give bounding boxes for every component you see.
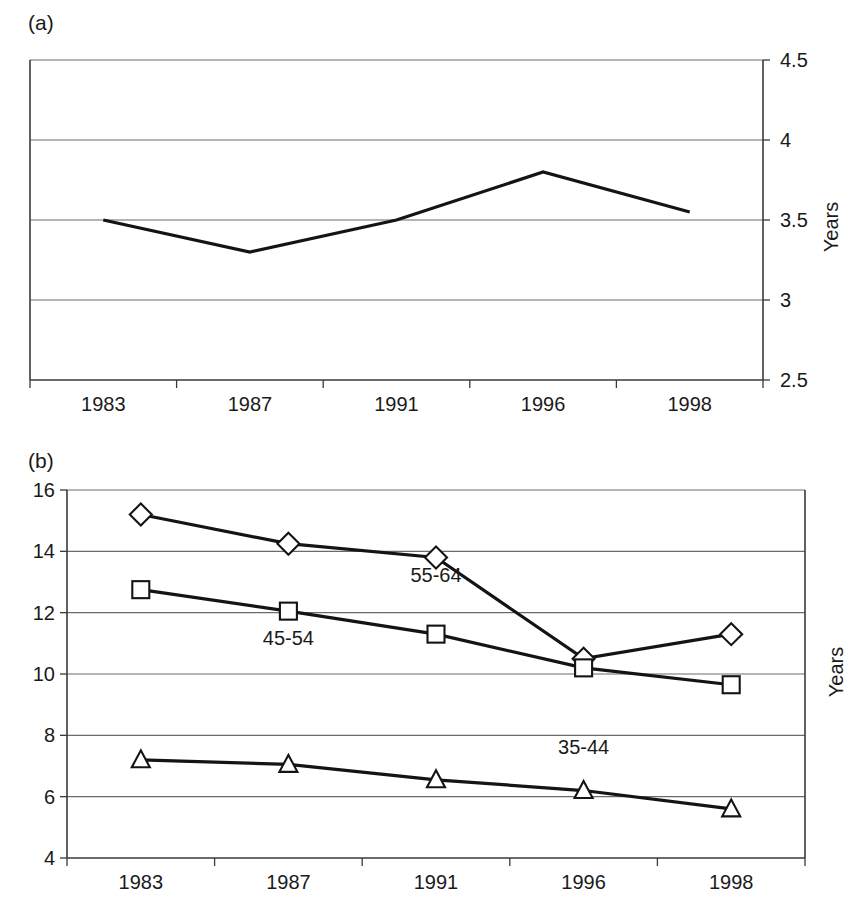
panel-b-series — [130, 504, 742, 817]
series-annotation-35-44: 35-44 — [558, 736, 609, 758]
x-tick-label: 1998 — [667, 393, 712, 415]
panel-a-gridlines — [30, 60, 763, 300]
panel-b-x-ticks: 19831987199119961998 — [67, 858, 805, 893]
panel-a-series — [103, 172, 689, 252]
y-tick-label: 3.5 — [780, 209, 808, 231]
x-tick-label: 1983 — [119, 871, 164, 893]
y-tick-label: 4 — [780, 129, 791, 151]
y-tick-label: 14 — [33, 540, 55, 562]
x-tick-label: 1996 — [521, 393, 566, 415]
marker-square — [280, 603, 297, 620]
panel-b-y-ticks: 46810121416 — [33, 479, 67, 869]
marker-square — [428, 626, 445, 643]
marker-square — [132, 581, 149, 598]
y-tick-label: 16 — [33, 479, 55, 501]
y-tick-label: 2.5 — [780, 369, 808, 391]
marker-diamond — [720, 623, 742, 645]
y-tick-label: 6 — [44, 786, 55, 808]
series-annotation-45-54: 45-54 — [263, 627, 314, 649]
x-tick-label: 1983 — [81, 393, 126, 415]
x-tick-label: 1998 — [709, 871, 754, 893]
marker-square — [575, 659, 592, 676]
x-tick-label: 1991 — [414, 871, 459, 893]
panel-b-label: (b) — [28, 449, 54, 472]
y-tick-label: 12 — [33, 602, 55, 624]
panel-b-y-axis-title: Years — [825, 647, 847, 697]
marker-square — [723, 676, 740, 693]
x-tick-label: 1987 — [228, 393, 273, 415]
panel-a: (a) 2.533.544.5 19831987199119961998 Yea… — [28, 11, 842, 415]
y-tick-label: 4 — [44, 847, 55, 869]
y-tick-label: 4.5 — [780, 49, 808, 71]
panel-a-y-axis-title: Years — [820, 202, 842, 252]
panel-b: (b) 46810121416 19831987199119961998 55-… — [28, 449, 847, 893]
x-tick-label: 1987 — [266, 871, 311, 893]
panel-a-label: (a) — [28, 11, 54, 34]
series-line — [103, 172, 689, 252]
y-tick-label: 3 — [780, 289, 791, 311]
marker-diamond — [130, 504, 152, 526]
x-tick-label: 1996 — [561, 871, 606, 893]
panel-a-y-ticks: 2.533.544.5 — [763, 49, 808, 391]
series-annotation-55-64: 55-64 — [410, 564, 461, 586]
y-tick-label: 8 — [44, 724, 55, 746]
figure-two-panel-line-charts: (a) 2.533.544.5 19831987199119961998 Yea… — [0, 0, 861, 916]
x-tick-label: 1991 — [374, 393, 419, 415]
panel-a-x-ticks: 19831987199119961998 — [30, 380, 763, 415]
y-tick-label: 10 — [33, 663, 55, 685]
